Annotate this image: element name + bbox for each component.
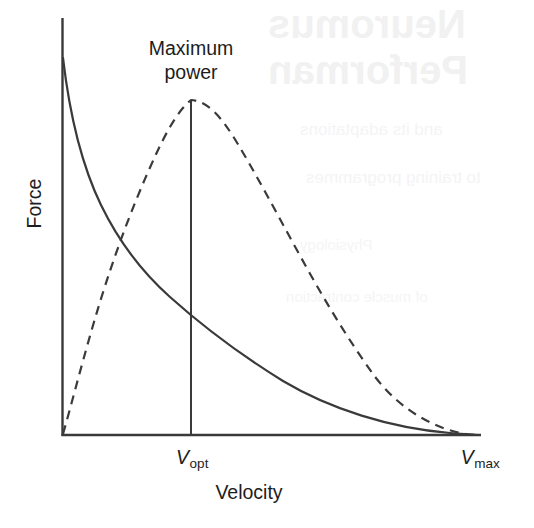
force-velocity-curve xyxy=(63,58,478,435)
x-tick-v-max-variable: V xyxy=(461,446,474,468)
power-velocity-curve xyxy=(63,100,478,435)
annotation-max-power-line1: Maximum xyxy=(103,36,279,60)
x-tick-v-opt-subscript: opt xyxy=(190,456,209,471)
figure-root: Neuromus Performan and its adaptations t… xyxy=(0,0,534,528)
x-tick-label-v-max: Vmax xyxy=(440,446,520,469)
x-axis-title: Velocity xyxy=(159,481,339,504)
annotation-maximum-power: Maximum power xyxy=(103,36,279,84)
x-tick-v-max-subscript: max xyxy=(474,456,500,471)
y-axis-title: Force xyxy=(23,156,46,252)
annotation-max-power-line2: power xyxy=(103,60,279,84)
x-tick-v-opt-variable: V xyxy=(176,446,189,468)
x-tick-label-v-opt: Vopt xyxy=(152,446,232,469)
